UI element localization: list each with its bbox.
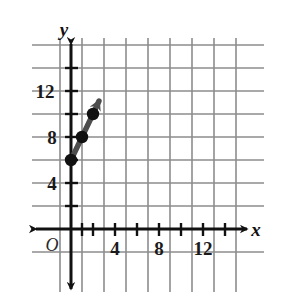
x-tick-label-4: 4 [110,238,120,259]
y-axis-label: y [58,19,69,40]
x-tick-label-12: 12 [194,238,213,259]
x-axis-label: x [250,219,261,240]
origin-label: O [46,235,59,255]
figure-background [0,0,283,308]
data-point [76,131,88,143]
data-point [87,108,99,120]
x-tick-label-8: 8 [154,238,164,259]
y-tick-label-8: 8 [47,127,57,148]
y-tick-label-4: 4 [47,173,57,194]
y-tick-label-12: 12 [36,81,55,102]
data-point [65,154,77,166]
coordinate-graph-figure: x y O 4 8 12 4 8 12 [0,0,283,308]
graph-canvas: x y O 4 8 12 4 8 12 [0,0,283,308]
